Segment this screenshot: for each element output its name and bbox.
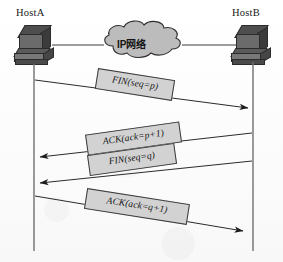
network-cloud-label: IP网络 xyxy=(117,36,146,51)
sequence-diagram-canvas: HostA HostB xyxy=(0,0,283,262)
